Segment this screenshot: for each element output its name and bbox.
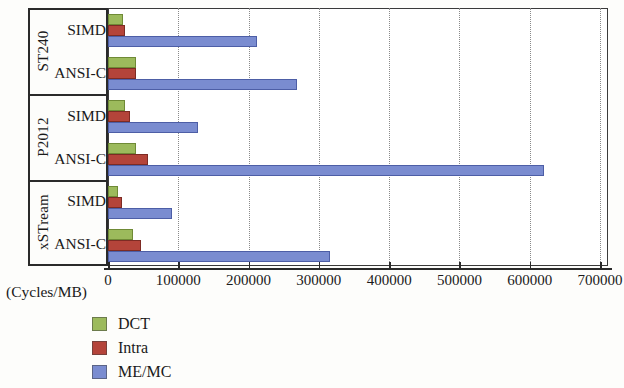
x-tick-0 (108, 262, 110, 270)
bar-intra-p2012-ansic (108, 154, 148, 165)
legend: DCT Intra ME/MC (92, 312, 171, 384)
x-tick-label-400000: 400000 (367, 272, 412, 289)
x-tick-100000 (178, 262, 180, 270)
plot-area (108, 8, 608, 266)
row-label-xstream-ansic: ANSI-C (30, 235, 106, 253)
row-label-st240-simd: SIMD (30, 21, 106, 39)
legend-item-dct: DCT (92, 312, 171, 336)
gridline-700000 (600, 8, 601, 266)
x-axis-unit-label: (Cycles/MB) (6, 283, 87, 301)
x-tick-700000 (600, 262, 602, 270)
bar-intra-xstream-simd (108, 197, 122, 208)
bar-intra-st240-simd (108, 25, 125, 36)
x-tick-300000 (319, 262, 321, 270)
legend-swatch-intra (92, 341, 107, 355)
row-label-p2012-ansic: ANSI-C (30, 150, 106, 168)
gridline-500000 (459, 8, 460, 266)
bar-dct-xstream-ansic (108, 229, 133, 240)
x-tick-600000 (530, 262, 532, 270)
bar-intra-p2012-simd (108, 111, 130, 122)
bar-memc-xstream-simd (108, 208, 172, 219)
bar-dct-p2012-ansic (108, 143, 136, 154)
bar-intra-xstream-ansic (108, 240, 141, 251)
x-tick-400000 (389, 262, 391, 270)
legend-label-memc: ME/MC (118, 363, 171, 381)
bar-memc-st240-ansic (108, 79, 297, 90)
bar-memc-p2012-ansic (108, 165, 544, 176)
x-axis-line (104, 268, 612, 270)
bar-memc-p2012-simd (108, 122, 198, 133)
x-tick-label-600000: 600000 (507, 272, 552, 289)
x-tick-500000 (459, 262, 461, 270)
x-tick-label-0: 0 (104, 272, 112, 289)
legend-swatch-dct (92, 317, 107, 331)
category-axis: ST240 SIMD ANSI-C P2012 SIMD ANSI-C xSTr… (0, 8, 108, 266)
group-band-st240: ST240 SIMD ANSI-C (30, 8, 108, 94)
legend-swatch-memc (92, 365, 107, 379)
legend-item-memc: ME/MC (92, 360, 171, 384)
bar-dct-p2012-simd (108, 100, 125, 111)
x-tick-label-200000: 200000 (226, 272, 271, 289)
bar-dct-st240-ansic (108, 57, 136, 68)
x-tick-200000 (249, 262, 251, 270)
legend-label-dct: DCT (118, 315, 150, 333)
x-tick-label-100000: 100000 (156, 272, 201, 289)
gridline-300000 (319, 8, 320, 266)
bar-intra-st240-ansic (108, 68, 136, 79)
bar-memc-xstream-ansic (108, 251, 330, 262)
bar-dct-xstream-simd (108, 186, 118, 197)
x-tick-label-700000: 700000 (578, 272, 623, 289)
x-tick-label-300000: 300000 (296, 272, 341, 289)
legend-label-intra: Intra (118, 339, 148, 357)
row-label-p2012-simd: SIMD (30, 107, 106, 125)
x-tick-label-500000: 500000 (437, 272, 482, 289)
bar-dct-st240-simd (108, 14, 123, 25)
gridline-400000 (389, 8, 390, 266)
group-band-xstream: xSTream SIMD ANSI-C (30, 180, 108, 264)
legend-item-intra: Intra (92, 336, 171, 360)
bar-chart-figure: ST240 SIMD ANSI-C P2012 SIMD ANSI-C xSTr… (0, 0, 624, 388)
row-label-st240-ansic: ANSI-C (30, 64, 106, 82)
gridline-600000 (530, 8, 531, 266)
row-label-xstream-simd: SIMD (30, 192, 106, 210)
bar-memc-st240-simd (108, 36, 257, 47)
group-band-p2012: P2012 SIMD ANSI-C (30, 94, 108, 180)
